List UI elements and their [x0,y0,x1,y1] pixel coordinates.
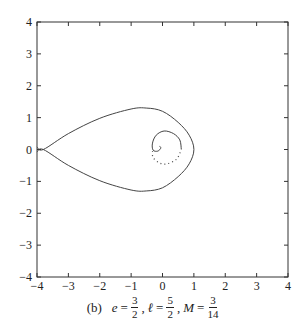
x-tick-label: −1 [125,279,138,290]
orbit-plot: −4−3−2−101234 43210−1−2−3−4 [0,0,305,290]
e-denominator: 2 [132,308,138,320]
y-tick-label: 2 [26,79,32,93]
x-tick-label: 0 [160,279,166,290]
plot-frame [37,22,288,277]
teardrop-orbit-solid [37,108,194,191]
caption-m-symbol: M [183,300,194,316]
x-tick-labels: −4−3−2−101234 [31,279,291,290]
plot-border [37,22,288,277]
m-numerator: 3 [209,295,217,308]
y-tick-label: 0 [26,143,32,157]
inner-spiral-solid [152,131,181,151]
l-denominator: 2 [167,308,173,320]
inner-spiral-dotted [152,151,180,164]
caption-equals-1: = [121,300,128,316]
x-tick-label: 4 [285,279,291,290]
caption-m-fraction: 3 14 [207,295,218,320]
axis-ticks [37,22,288,277]
caption-label: (b) [87,300,102,316]
caption-l-fraction: 5 2 [166,295,174,320]
l-numerator: 5 [166,295,174,308]
x-tick-label: 2 [222,279,228,290]
m-denominator: 14 [207,308,218,320]
y-tick-label: −3 [19,238,32,252]
y-tick-label: 3 [26,47,32,61]
orbit-curves [37,108,194,191]
caption-equals-2: = [156,300,163,316]
figure-caption: (b) e = 3 2 , ℓ = 5 2 , M = 3 14 [0,295,305,320]
caption-comma-1: , [141,300,144,316]
caption-e-fraction: 3 2 [131,295,139,320]
x-tick-label: −4 [31,279,44,290]
y-tick-label: −1 [19,174,32,188]
caption-l-symbol: ℓ [148,300,153,316]
y-tick-label: 1 [26,111,32,125]
x-tick-label: −3 [62,279,75,290]
x-tick-label: 3 [254,279,260,290]
y-tick-label: −4 [19,270,32,284]
caption-e-symbol: e [112,300,118,316]
e-numerator: 3 [131,295,139,308]
x-tick-label: −2 [93,279,106,290]
caption-equals-3: = [197,300,204,316]
y-tick-label: −2 [19,206,32,220]
y-tick-labels: 43210−1−2−3−4 [19,15,32,284]
x-tick-label: 1 [191,279,197,290]
y-tick-label: 4 [26,15,32,29]
caption-comma-2: , [177,300,180,316]
